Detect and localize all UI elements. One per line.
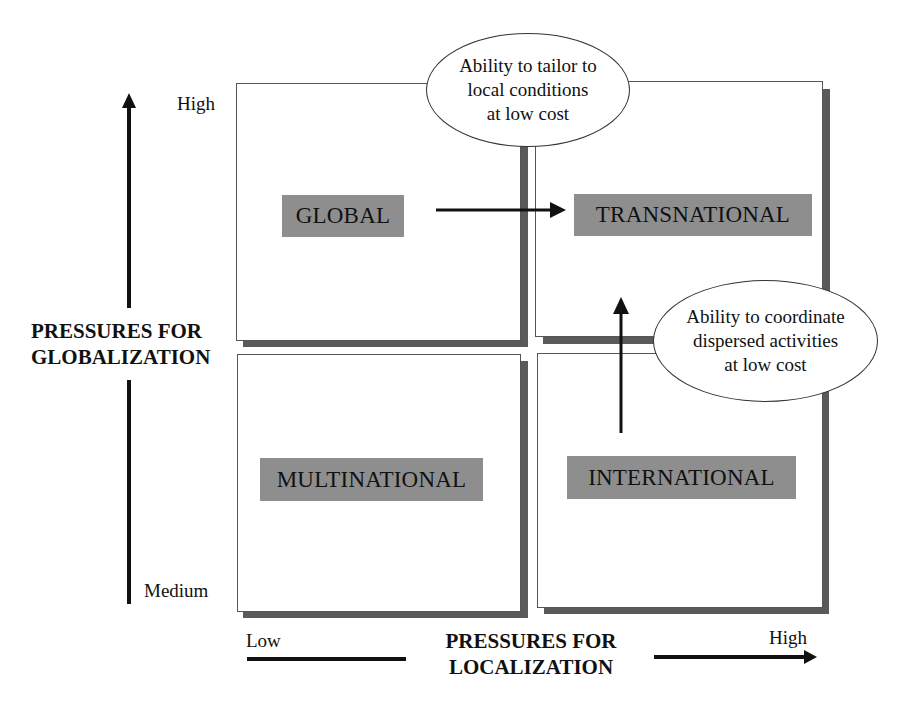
- x-axis-title: PRESSURES FOR LOCALIZATION: [420, 628, 642, 680]
- callout-tailor-line1: Ability to tailor to: [459, 54, 597, 78]
- y-axis-title-line1: PRESSURES FOR: [31, 318, 210, 344]
- arrow-global-to-transnational-icon: [436, 202, 566, 218]
- callout-coordinate-line1: Ability to coordinate: [686, 305, 844, 329]
- y-axis-medium-label: Medium: [144, 580, 208, 602]
- callout-tailor-line2: local conditions: [468, 78, 589, 102]
- y-axis-title-line2: GLOBALIZATION: [31, 344, 210, 370]
- callout-tailor-line3: at low cost: [487, 102, 569, 126]
- callout-tailor-local: Ability to tailor to local conditions at…: [426, 33, 630, 147]
- x-axis-title-line2: LOCALIZATION: [420, 654, 642, 680]
- callout-coordinate-dispersed: Ability to coordinate dispersed activiti…: [653, 280, 878, 402]
- y-axis-title: PRESSURES FOR GLOBALIZATION: [31, 318, 210, 370]
- x-axis-low-label: Low: [246, 630, 281, 652]
- callout-coordinate-line3: at low cost: [724, 353, 806, 377]
- x-axis-title-line1: PRESSURES FOR: [420, 628, 642, 654]
- y-axis-high-label: High: [177, 93, 215, 115]
- arrow-international-to-transnational-icon: [613, 297, 629, 433]
- x-axis-high-label: High: [769, 627, 807, 649]
- callout-coordinate-line2: dispersed activities: [693, 329, 838, 353]
